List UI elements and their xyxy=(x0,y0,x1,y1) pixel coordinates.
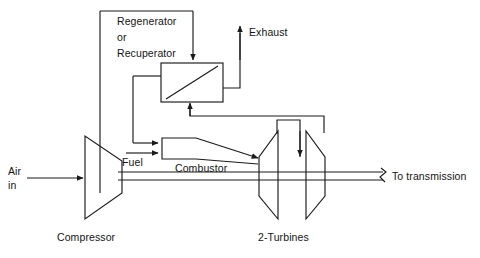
turbine2-to-regenerator-pipe xyxy=(190,103,324,133)
exhaust-label: Exhaust xyxy=(249,26,288,38)
turbine-1-symbol xyxy=(259,131,278,219)
regenerator-to-combustor-pipe xyxy=(133,76,161,143)
turbines-label: 2-Turbines xyxy=(258,231,309,243)
turbine-2-symbol xyxy=(306,131,325,219)
recuperator-label: Recuperator xyxy=(117,47,176,59)
air-in-label-line1: Air xyxy=(8,165,22,177)
combustor-label: Combustor xyxy=(175,162,228,174)
regenerator-heat-exchanger-symbol xyxy=(161,63,223,102)
gas-turbine-schematic-diagram: Regenerator or Recuperator Exhaust Fuel … xyxy=(0,0,480,258)
exhaust-stack-pipe xyxy=(223,26,240,88)
air-in-label-line2: in xyxy=(8,179,16,191)
turbine1-to-turbine2-duct xyxy=(277,120,300,157)
regenerator-label: Regenerator xyxy=(117,15,177,27)
to-transmission-label: To transmission xyxy=(392,170,467,182)
compressor-label: Compressor xyxy=(57,231,116,243)
fuel-label: Fuel xyxy=(122,156,143,168)
compressor-symbol xyxy=(85,136,122,219)
combustor-symbol xyxy=(162,138,258,164)
regenerator-or-label: or xyxy=(117,31,127,43)
main-shaft xyxy=(118,168,386,182)
schematic-canvas: Regenerator or Recuperator Exhaust Fuel … xyxy=(0,0,480,258)
